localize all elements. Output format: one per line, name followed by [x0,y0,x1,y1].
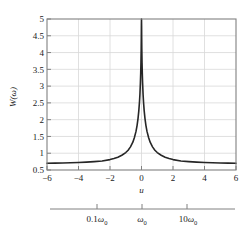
x-tick-label-0: −6 [42,173,52,183]
secondary-frequency-axis: 0.1ω0 ω0 10ω0 [50,204,235,226]
y-tick-label-5: 3 [40,81,45,91]
y-tick-label-7: 4 [40,48,45,58]
y-tick-label-2: 1.5 [33,132,45,142]
chart-svg: 0.5 1 1.5 2 2.5 3 3.5 4 4.5 5 −6 −4 −2 0… [0,0,249,235]
y-axis-title: W(ω) [8,87,18,107]
x-tick-label-6: 6 [234,173,239,183]
y-tick-label-8: 4.5 [33,31,45,41]
y-tick-labels: 0.5 1 1.5 2 2.5 3 3.5 4 4.5 5 [33,14,45,175]
y-tick-label-6: 3.5 [33,65,45,75]
y-tick-label-1: 1 [40,148,45,158]
y-tick-label-3: 2 [40,115,45,125]
secondary-label-0-main: 0.1 [87,214,98,224]
x-tick-label-5: 4 [202,173,207,183]
x-axis-title: u [139,185,144,195]
x-tick-label-1: −4 [74,173,84,183]
secondary-label-1-sub: 0 [144,219,147,226]
secondary-tick-label-2: 10ω0 [179,214,198,226]
secondary-label-2-sub: 0 [194,219,197,226]
x-tick-labels: −6 −4 −2 0 2 4 6 [42,173,239,183]
y-tick-label-4: 2.5 [33,98,45,108]
secondary-tick-label-1: ω0 [137,214,147,226]
secondary-label-0-sub: 0 [104,219,107,226]
secondary-tick-label-0: 0.1ω0 [87,214,108,226]
lorentzian-resonance-chart: 0.5 1 1.5 2 2.5 3 3.5 4 4.5 5 −6 −4 −2 0… [0,0,249,235]
x-tick-label-3: 0 [139,173,144,183]
x-tick-label-4: 2 [171,173,176,183]
y-tick-label-9: 5 [40,14,45,24]
x-tick-label-2: −2 [105,173,115,183]
